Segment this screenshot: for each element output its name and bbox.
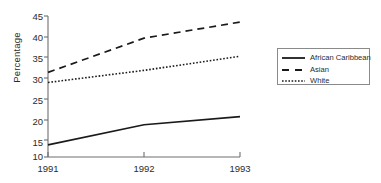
legend-label: White	[310, 77, 329, 85]
plot-area	[0, 0, 381, 183]
legend-label: Asian	[310, 66, 329, 74]
legend-swatch-solid-icon	[281, 53, 306, 63]
legend-item-white: White	[278, 75, 369, 87]
x-tick-label: 1992	[133, 163, 154, 174]
series-line-white	[48, 56, 240, 82]
x-tick-label: 1991	[37, 163, 58, 174]
legend-item-african-caribbean: African Caribbean	[278, 52, 369, 64]
y-axis-ticks	[44, 16, 48, 157]
x-tick-label: 1993	[229, 163, 250, 174]
series-line-asian	[48, 22, 240, 72]
line-chart: Percentage 45 40 35 30 25 20 15 10	[0, 0, 381, 183]
series-line-african-caribbean	[48, 117, 240, 145]
legend-swatch-dotted-icon	[281, 76, 306, 86]
legend: African Caribbean Asian White	[277, 48, 370, 85]
x-axis-ticks	[48, 152, 240, 157]
legend-label: African Caribbean	[310, 54, 371, 62]
legend-swatch-dashed-icon	[281, 65, 306, 75]
